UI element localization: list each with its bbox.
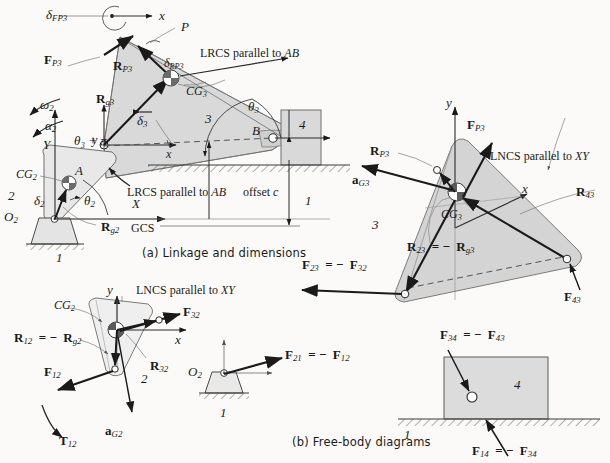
label-theta3: θ3 [248, 100, 259, 115]
label-FP3: FP3 [44, 53, 62, 68]
leader-FP3 [68, 57, 100, 66]
label-omega2: ω2 [40, 98, 54, 113]
label-x-local-a: x [166, 148, 171, 160]
joint-32 [156, 317, 162, 323]
label-y-axis-fbd3: y [446, 96, 452, 109]
label-offset-c: offset c [243, 186, 278, 198]
label-O2-fbd: O2 [188, 365, 202, 380]
label-Y-axis: Y [43, 138, 50, 151]
label-lncs-fbd3: LNCS parallel to XY [490, 150, 589, 162]
label-R12-eq: R12 = − Rg2 [14, 331, 82, 346]
label-O2-a: O2 [4, 210, 18, 225]
label-lrcs-top: LRCS parallel to AB [200, 47, 299, 59]
vector-F43-leader [570, 264, 580, 290]
label-theta3-plus-pi: θ₃ + π [74, 134, 107, 147]
label-aG2: aG2 [105, 424, 122, 439]
joint-23 [401, 290, 409, 298]
label-y-local-a: y [92, 134, 97, 146]
link3-fbd-body [395, 139, 582, 302]
label-y-axis-fbd2: y [107, 283, 113, 296]
link2-body [43, 145, 116, 223]
label-alpha2: α2 [45, 119, 56, 134]
label-F43: F43 [564, 290, 581, 305]
label-link2-number: 2 [8, 189, 15, 202]
label-F34-eq: F34 = − F43 [440, 328, 505, 343]
label-ground-1-right: 1 [305, 194, 312, 207]
label-CG2-fbd2: CG2 [54, 299, 75, 313]
label-F32: F32 [183, 305, 200, 320]
label-R32: R32 [150, 359, 168, 374]
label-x-axis-fbd2: x [175, 333, 181, 346]
label-F23-eq: F23 = − F32 [302, 258, 367, 273]
ground-pivot-O2 [26, 216, 84, 250]
label-point-B: B [252, 124, 260, 137]
label-CG2-a: CG2 [16, 168, 37, 182]
cg2-marker-a [62, 176, 76, 190]
label-link2-number-fbd: 2 [141, 372, 148, 385]
label-x-axis-fbd3: x [522, 182, 528, 195]
label-link4-number: 4 [299, 118, 306, 131]
label-ground-1-fbd: 1 [220, 406, 227, 419]
leader-RP3-fbd [398, 153, 432, 166]
label-Rg2: Rg2 [101, 220, 119, 235]
point-P-fbd [434, 167, 441, 174]
label-lncs-fbd2: LNCS parallel to XY [136, 284, 235, 296]
point-P-axes [59, 6, 152, 30]
label-CG3-fbd3: CG3 [441, 208, 462, 222]
caption-a: (a) Linkage and dimensions [142, 248, 306, 260]
label-delta3: δ3 [137, 114, 147, 129]
label-R43: R43 [576, 185, 594, 200]
label-link4-number-fbd: 4 [514, 378, 521, 391]
label-F21-eq: F21 = − F12 [285, 348, 350, 363]
label-F12: F12 [44, 365, 61, 380]
caption-b: (b) Free-body diagrams [292, 437, 431, 449]
label-GCS: GCS [131, 222, 154, 234]
label-point-P: P [181, 20, 189, 33]
label-lrcs-bottom: LRCS parallel to AB [127, 186, 226, 198]
diagram-vector-layer [0, 0, 610, 463]
label-point-A: A [75, 164, 83, 177]
label-Rg3: Rg3 [96, 92, 114, 107]
ground-surface-slider [148, 165, 350, 172]
label-x-axis-top: x [159, 9, 165, 22]
vector-F12 [58, 371, 113, 390]
label-delta2: δ2 [34, 194, 44, 209]
label-R23-eq: R23 = − Rg3 [407, 240, 475, 255]
label-ground-1-left: 1 [56, 251, 63, 264]
label-delta-RP3: δRP3 [164, 57, 184, 71]
label-link3-number-fbd: 3 [372, 218, 379, 231]
figure-canvas: δFP3 x P FP3 RP3 δRP3 LRCS parallel to A… [0, 0, 610, 463]
label-theta2: θ2 [84, 194, 95, 209]
label-RP3: RP3 [113, 59, 132, 74]
label-RP3-fbd3: RP3 [370, 144, 389, 159]
vector-F23 [302, 290, 402, 294]
label-F14-eq: F14 = − F34 [472, 444, 537, 459]
joint-43 [563, 255, 571, 263]
label-link3-number: 3 [205, 112, 212, 125]
label-delta-FP3: δFP3 [46, 8, 67, 23]
label-T12: T12 [59, 434, 77, 449]
label-CG3-a: CG3 [186, 85, 207, 99]
leader-P [150, 28, 175, 43]
label-FP3-fbd3: FP3 [467, 118, 485, 133]
label-aG3: aG3 [352, 173, 369, 188]
ground-fbd-body [199, 340, 282, 399]
cg3-marker-a [163, 70, 179, 86]
